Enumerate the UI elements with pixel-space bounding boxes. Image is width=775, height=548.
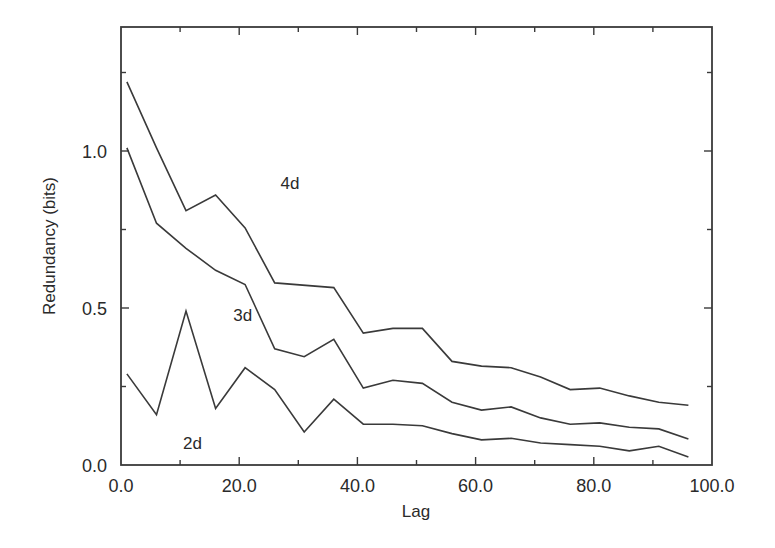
y-tick-label: 0.0 [82,456,107,476]
y-tick-label: 0.5 [82,299,107,319]
y-tick-label: 1.0 [82,142,107,162]
x-tick-label: 40.0 [340,476,375,496]
series-labels: 4d3d2d [183,174,299,454]
y-axis-label: Redundancy (bits) [40,177,59,315]
redundancy-chart: 0.020.040.060.080.0100.00.00.51.0 4d3d2d… [0,0,775,548]
x-tick-label: 20.0 [222,476,257,496]
x-tick-label: 100.0 [689,476,734,496]
x-tick-label: 0.0 [108,476,133,496]
axis-ticks [121,27,712,465]
x-tick-label: 80.0 [576,476,611,496]
x-tick-label: 60.0 [458,476,493,496]
series-4d-line [127,82,689,405]
x-axis-label: Lag [402,502,430,521]
series-2d-line [127,311,689,457]
data-series [127,82,689,457]
plot-frame [121,27,712,465]
series-4d-label: 4d [281,174,300,193]
tick-labels: 0.020.040.060.080.0100.00.00.51.0 [82,142,735,496]
series-3d-label: 3d [233,306,252,325]
series-2d-label: 2d [183,434,202,453]
